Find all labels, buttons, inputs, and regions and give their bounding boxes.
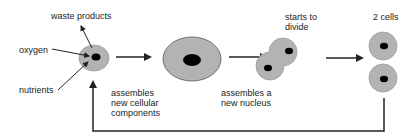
two-cells	[369, 32, 397, 92]
nutrients-arrow	[58, 62, 88, 90]
label-starts-to-divide: starts to divide	[285, 12, 317, 32]
nucleus	[264, 65, 272, 71]
cell-cycle-diagram	[0, 0, 417, 140]
nucleus	[380, 43, 388, 49]
small-cell	[79, 45, 109, 71]
nucleus	[285, 48, 293, 54]
label-assembles-components: assembles new cellular components	[111, 88, 160, 118]
grown-cell	[163, 37, 221, 81]
waste-products-arrow	[81, 26, 92, 48]
nucleus	[92, 54, 101, 61]
nucleus	[380, 76, 388, 82]
label-waste-products: waste products	[51, 11, 112, 21]
label-two-cells: 2 cells	[373, 12, 399, 22]
nucleus	[183, 54, 201, 66]
label-assembles-nucleus: assembles a new nucleus	[221, 88, 272, 108]
label-oxygen: oxygen	[19, 45, 48, 55]
dividing-cell	[256, 38, 297, 80]
label-nutrients: nutrients	[19, 85, 54, 95]
